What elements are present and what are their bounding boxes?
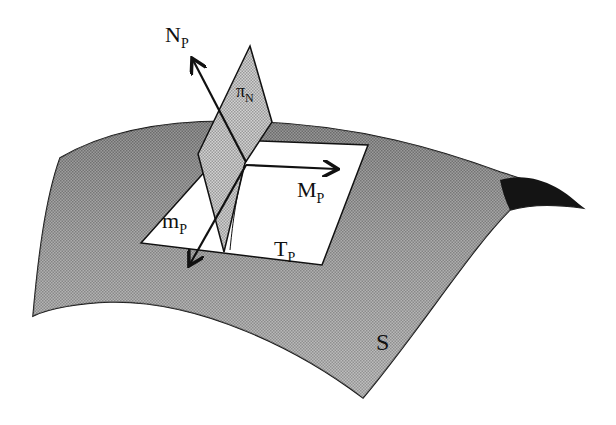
surface-underside-dark: [500, 177, 583, 210]
label-surface: S: [376, 329, 389, 355]
surface-geometry-diagram: NP πN MP mP TP S: [0, 0, 616, 425]
label-normal-vector: NP: [165, 22, 189, 51]
